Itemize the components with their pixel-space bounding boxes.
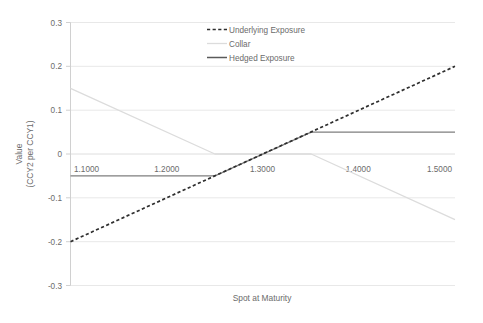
x-tick-label-2: 1.2000 [154,165,179,174]
x-axis-title: Spot at Maturity [233,293,292,303]
y-tick-labels: 0.3 0.2 0.1 0 -0.1 -0.2 -0.3 [48,19,63,291]
chart-legend: Underlying Exposure Collar Hedged Exposu… [207,26,305,63]
y-tick-label-neg0.2: -0.2 [48,238,63,247]
legend-label-hedged-exposure: Hedged Exposure [229,54,295,63]
line-chart: 0.3 0.2 0.1 0 -0.1 -0.2 -0.3 1.1000 1.20… [0,0,483,323]
y-tick-label-0.3: 0.3 [51,19,63,28]
legend-label-underlying-exposure: Underlying Exposure [229,26,305,35]
legend-label-collar: Collar [229,40,251,49]
legend-item-underlying-exposure[interactable]: Underlying Exposure [207,26,305,35]
y-tick-label-0.2: 0.2 [51,62,63,71]
y-tick-label-neg0.1: -0.1 [48,194,63,203]
y-tick-label-0: 0 [57,150,62,159]
x-tick-labels: 1.1000 1.2000 1.3000 1.4000 1.5000 [74,165,452,174]
y-axis-ticks [66,23,71,286]
legend-item-collar[interactable]: Collar [207,40,251,49]
y-tick-label-0.1: 0.1 [51,106,63,115]
chart-container: 0.3 0.2 0.1 0 -0.1 -0.2 -0.3 1.1000 1.20… [0,0,483,323]
x-tick-label-5: 1.5000 [427,165,452,174]
legend-item-hedged-exposure[interactable]: Hedged Exposure [207,54,295,63]
y-tick-label-neg0.3: -0.3 [48,282,63,291]
x-tick-label-4: 1.4000 [346,165,371,174]
y-axis-title: Value (CCY2 per CCY1) [14,120,35,187]
y-axis-title-line2: (CCY2 per CCY1) [25,120,35,187]
y-axis-title-line1: Value [14,143,24,164]
x-tick-label-1: 1.1000 [74,165,99,174]
x-tick-label-3: 1.3000 [250,165,275,174]
